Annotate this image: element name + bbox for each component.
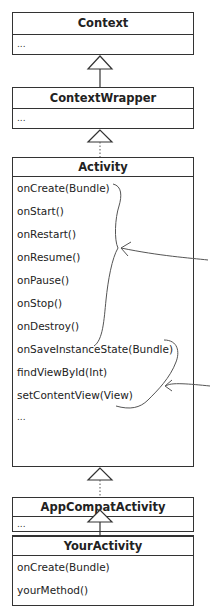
inheritance-arrow-icon bbox=[88, 130, 112, 142]
arrowhead-icon bbox=[165, 380, 172, 391]
inheritance-arrow-icon bbox=[88, 468, 112, 480]
brace-other bbox=[116, 340, 178, 408]
inheritance-arrow-icon bbox=[88, 510, 112, 522]
brace-lifecycle bbox=[94, 184, 121, 346]
inheritance-arrow-icon bbox=[88, 56, 112, 69]
annotation-arrow-icon bbox=[121, 248, 208, 260]
annotation-arrow-icon bbox=[166, 384, 210, 386]
